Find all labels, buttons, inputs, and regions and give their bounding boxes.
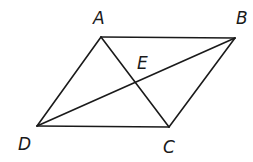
label-D: D bbox=[18, 134, 31, 154]
segment-CD bbox=[37, 126, 169, 127]
label-A: A bbox=[92, 8, 105, 28]
label-B: B bbox=[236, 8, 248, 28]
diagram-svg: A B C D E bbox=[0, 0, 253, 162]
diagonal-DB bbox=[37, 38, 235, 126]
segment-BC bbox=[169, 38, 235, 127]
segments bbox=[37, 37, 235, 127]
label-C: C bbox=[163, 137, 175, 157]
label-E: E bbox=[137, 53, 148, 73]
segment-AB bbox=[101, 37, 235, 38]
labels: A B C D E bbox=[18, 8, 248, 157]
geometry-diagram: A B C D E bbox=[0, 0, 253, 162]
